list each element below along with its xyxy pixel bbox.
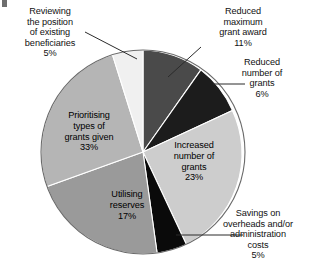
slice-label-savings-on-overheads: Savings on overheads and/or administrati… — [206, 208, 310, 261]
slice-label-reduced-maximum-grant-award: Reduced maximum grant award 11% — [196, 6, 290, 48]
slice-label-reviewing-position-of-existing-beneficiaries: Reviewing the position of existing benef… — [2, 6, 98, 59]
slice-label-increased-number-of-grants: Increased number of grants 23% — [152, 140, 236, 183]
pie-chart: Reviewing the position of existing benef… — [0, 0, 315, 275]
slice-label-utilising-reserves: Utilising reserves 17% — [88, 189, 166, 221]
slice-label-reduced-number-of-grants: Reduced number of grants 6% — [218, 57, 306, 99]
slice-label-prioritising-types-of-grants-given: Prioritising types of grants given 33% — [42, 110, 136, 153]
